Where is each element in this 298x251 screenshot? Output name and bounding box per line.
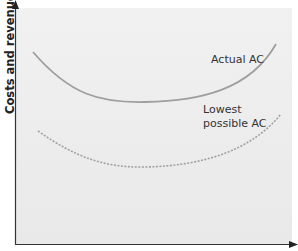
x-axis-arrow-icon xyxy=(289,241,298,248)
chart: Costs and revenue Actual AC Lowest possi… xyxy=(0,0,298,251)
lowest-possible-ac-label-line2: possible AC xyxy=(203,117,267,131)
y-axis-label: Costs and revenue xyxy=(3,4,17,114)
lowest-possible-ac-label: Lowest possible AC xyxy=(203,103,267,131)
actual-ac-label: Actual AC xyxy=(211,53,264,67)
lowest-possible-ac-label-line1: Lowest xyxy=(203,103,267,117)
